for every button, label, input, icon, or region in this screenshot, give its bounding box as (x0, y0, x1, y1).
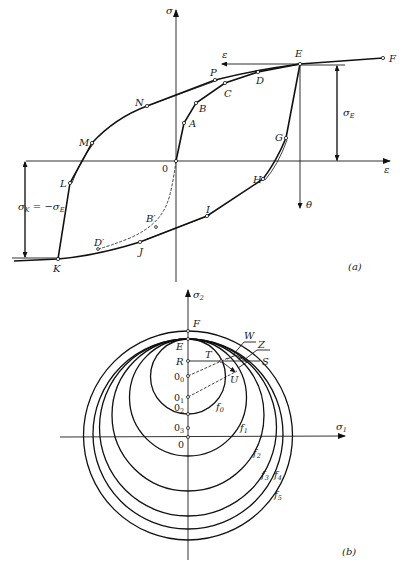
point-label-S: S (262, 356, 269, 367)
surface-label-f0: f0 (215, 401, 224, 414)
reverse-branch-OBprimeDprime (98, 161, 176, 249)
point-label-B: B (198, 103, 206, 114)
epsilon-arrow-label: ε (222, 49, 227, 60)
point-label-F-b: F (192, 318, 201, 329)
point-label-L: L (59, 178, 67, 189)
arrow-T-to-U (221, 361, 235, 372)
point-label-Z: Z (257, 339, 266, 350)
point-label-T: T (205, 349, 213, 360)
sigma2-axis-label: σ2 (193, 289, 204, 302)
lower-branch-EGHIJK (14, 64, 300, 261)
surface-label-f1: f1 (239, 422, 248, 435)
point-label-C: C (224, 88, 232, 99)
sigma1-axis-label: σ1 (336, 421, 347, 434)
point-label-O-b: 0 (178, 439, 184, 450)
point-label-E: E (294, 48, 303, 59)
point-label-P: P (209, 67, 217, 78)
point-label-O0: 00 (174, 371, 184, 384)
point-label-H: H (252, 174, 262, 185)
point-label-U: U (230, 374, 239, 385)
surface-label-f5: f5 (273, 489, 282, 502)
point-label-G: G (275, 132, 283, 143)
surface-label-f4: f4 (273, 469, 282, 482)
point-label-D: D (255, 75, 264, 86)
panel-b-yield-surfaces: σ2 σ1 (60, 289, 356, 560)
point-label-O: 0 (162, 163, 168, 174)
point-label-K: K (52, 263, 61, 274)
sigma1-axis (60, 436, 345, 437)
epsilon-axis-label: ε (384, 164, 389, 175)
point-label-E-b: E (175, 341, 184, 352)
point-label-D-prime: D′ (93, 237, 105, 248)
surface-label-f2: f2 (252, 447, 261, 460)
point-label-O3: 03 (174, 422, 184, 435)
point-label-W: W (244, 330, 255, 341)
point-label-F: F (388, 53, 397, 64)
loading-curve-OABCDEF (176, 58, 383, 161)
point-label-J: J (137, 246, 144, 257)
point-label-R: R (175, 356, 184, 367)
point-label-M: M (78, 137, 90, 148)
panel-b-point-markers (187, 330, 223, 439)
sigma-axis-label: σ (166, 5, 174, 16)
point-label-B-prime: B′ (145, 213, 156, 224)
point-label-N: N (134, 97, 145, 108)
lower-branch-double-line (145, 140, 287, 240)
point-label-A: A (188, 118, 196, 129)
figure-canvas: σ ε ε θ σE σK = −σE (0, 0, 406, 577)
upper-branch-double-line (72, 80, 218, 183)
panel-a-caption: (a) (348, 261, 362, 272)
panel-a-stress-strain-hysteresis: σ ε ε θ σE σK = −σE (12, 5, 397, 282)
sigma-E-label: σE (343, 107, 355, 120)
panel-b-caption: (b) (342, 546, 356, 557)
surface-label-f3: f3 (260, 469, 269, 482)
upper-branch-KLMNPE (58, 64, 300, 259)
theta-arrow-label: θ (306, 199, 312, 210)
